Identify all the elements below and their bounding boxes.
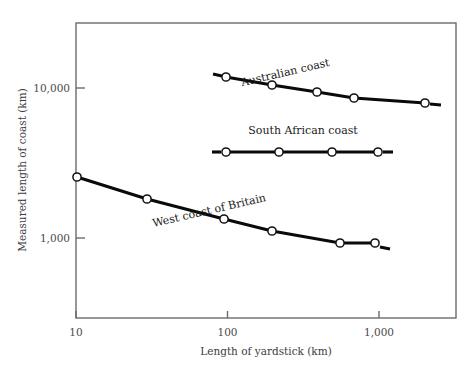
y-tick-label: 10,000 — [33, 82, 70, 94]
y-axis-ticks: 1,00010,000 — [33, 82, 85, 244]
data-point-marker — [268, 227, 276, 235]
coastline-paradox-figure: 101001,000 1,00010,000 Australian coastS… — [0, 0, 474, 373]
data-point-marker — [371, 239, 379, 247]
series-end-stub-left — [213, 74, 222, 76]
series-label-layer: Australian coastSouth African coastWest … — [151, 56, 358, 230]
data-point-marker — [421, 99, 429, 107]
data-point-marker — [350, 94, 358, 102]
x-axis-ticks: 101001,000 — [69, 311, 394, 338]
x-tick-label: 10 — [69, 326, 82, 338]
x-tick-label: 1,000 — [364, 326, 394, 338]
y-axis-title: Measured length of coast (km) — [16, 88, 28, 252]
y-tick-label: 1,000 — [40, 232, 70, 244]
series-annotation-label: Australian coast — [239, 56, 332, 89]
plot-frame — [76, 23, 456, 318]
data-point-marker — [328, 148, 336, 156]
data-point-marker — [220, 215, 228, 223]
x-tick-label: 100 — [217, 326, 237, 338]
x-axis-title: Length of yardstick (km) — [200, 345, 332, 357]
data-point-marker — [313, 88, 321, 96]
data-point-marker — [143, 195, 151, 203]
series-end-stub-right — [430, 104, 441, 105]
series-end-stub-right — [380, 247, 390, 249]
data-point-marker — [222, 73, 230, 81]
data-point-marker — [336, 239, 344, 247]
series-south-african-coast — [212, 148, 393, 156]
data-point-marker — [73, 173, 81, 181]
series-annotation-label: South African coast — [248, 124, 358, 137]
data-point-marker — [374, 148, 382, 156]
chart-canvas: 101001,000 1,00010,000 Australian coastS… — [0, 0, 474, 373]
data-point-marker — [275, 148, 283, 156]
data-series-layer — [73, 73, 441, 249]
data-point-marker — [222, 148, 230, 156]
